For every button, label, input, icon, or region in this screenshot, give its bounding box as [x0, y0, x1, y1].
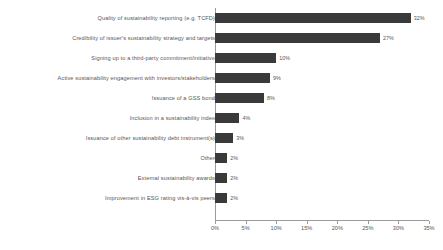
bar-category-label: Issuance of other sustainability debt in…	[86, 128, 215, 148]
bar-value-label: 3%	[236, 128, 244, 148]
bar-value-label: 27%	[383, 28, 394, 48]
value-axis-tick	[337, 221, 338, 224]
bar-row: Improvement in ESG rating vis-à-vis peer…	[0, 188, 443, 208]
value-axis-tick-label: 10%	[271, 225, 282, 231]
bar-track: 2%	[215, 148, 443, 168]
bar-track: 10%	[215, 48, 443, 68]
bar	[215, 93, 264, 103]
bar-value-label: 10%	[279, 48, 290, 68]
bar-category-label: Quality of sustainability reporting (e.g…	[98, 8, 215, 28]
value-axis-tick	[398, 221, 399, 224]
bar	[215, 13, 411, 23]
bar	[215, 53, 276, 63]
bar-track: 8%	[215, 88, 443, 108]
bar-row: Issuance of a GSS bond8%	[0, 88, 443, 108]
bar	[215, 33, 380, 43]
bar-track: 32%	[215, 8, 443, 28]
bar-category-label: Signing up to a third-party commitment/i…	[91, 48, 215, 68]
value-axis-tick-label: 20%	[332, 225, 343, 231]
value-axis-tick-label: 25%	[362, 225, 373, 231]
bar-track: 3%	[215, 128, 443, 148]
bar-row: Quality of sustainability reporting (e.g…	[0, 8, 443, 28]
bar-track: 4%	[215, 108, 443, 128]
bar-category-label: Inclusion in a sustainability index	[130, 108, 215, 128]
value-axis-line	[215, 220, 429, 221]
bar-category-label: Active sustainability engagement with in…	[58, 68, 215, 88]
value-axis-tick	[368, 221, 369, 224]
bar-value-label: 8%	[267, 88, 275, 108]
value-axis: 0%5%10%15%20%25%30%35%	[215, 220, 443, 250]
bar	[215, 73, 270, 83]
value-axis-tick-label: 30%	[393, 225, 404, 231]
bar-category-label: External sustainability awards	[138, 168, 215, 188]
bar	[215, 133, 233, 143]
bar-row: Issuance of other sustainability debt in…	[0, 128, 443, 148]
bar-value-label: 2%	[230, 188, 238, 208]
value-axis-tick	[246, 221, 247, 224]
value-axis-tick	[429, 221, 430, 224]
bar-category-label: Improvement in ESG rating vis-à-vis peer…	[105, 188, 215, 208]
value-axis-tick	[215, 221, 216, 224]
value-axis-tick-label: 0%	[211, 225, 219, 231]
bar-row: Signing up to a third-party commitment/i…	[0, 48, 443, 68]
bar-row: External sustainability awards2%	[0, 168, 443, 188]
value-axis-tick-label: 35%	[423, 225, 434, 231]
bar-track: 27%	[215, 28, 443, 48]
bar-value-label: 4%	[242, 108, 250, 128]
bar-row: Credibility of issuer's sustainability s…	[0, 28, 443, 48]
value-axis-tick-label: 5%	[242, 225, 250, 231]
bar-track: 2%	[215, 188, 443, 208]
bar-category-label: Issuance of a GSS bond	[152, 88, 215, 108]
value-axis-tick	[276, 221, 277, 224]
bar-row: Inclusion in a sustainability index4%	[0, 108, 443, 128]
value-axis-tick	[307, 221, 308, 224]
bar-track: 9%	[215, 68, 443, 88]
bar-value-label: 32%	[414, 8, 425, 28]
bar-category-label: Credibility of issuer's sustainability s…	[72, 28, 215, 48]
bar	[215, 193, 227, 203]
bar-row: Other2%	[0, 148, 443, 168]
bar-row: Active sustainability engagement with in…	[0, 68, 443, 88]
bar-value-label: 2%	[230, 168, 238, 188]
bar	[215, 153, 227, 163]
value-axis-tick-label: 15%	[301, 225, 312, 231]
bar-track: 2%	[215, 168, 443, 188]
bar	[215, 173, 227, 183]
bar-value-label: 2%	[230, 148, 238, 168]
bar	[215, 113, 239, 123]
bar-chart: Quality of sustainability reporting (e.g…	[0, 0, 443, 250]
bar-rows: Quality of sustainability reporting (e.g…	[0, 8, 443, 220]
bar-value-label: 9%	[273, 68, 281, 88]
